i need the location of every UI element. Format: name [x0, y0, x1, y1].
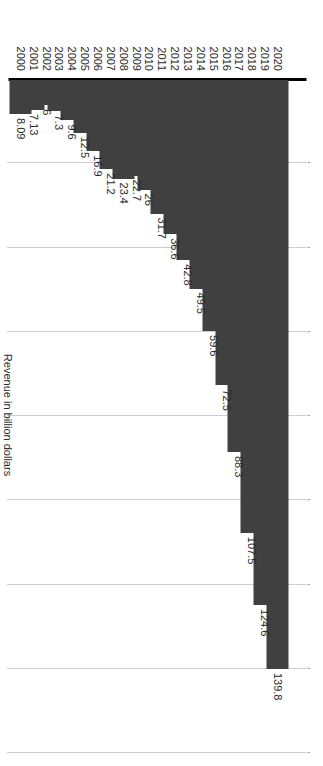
bar-row: 62002: [48, 78, 61, 752]
bar-row: 42.82013: [189, 78, 202, 752]
bar-row: 31.72011: [163, 78, 176, 752]
bar-row: 9.62004: [73, 78, 86, 752]
bar-row: 124.62019: [266, 78, 279, 752]
bar-row: 7.132001: [35, 78, 48, 752]
bar-row: 22.72009: [138, 78, 151, 752]
axis-title: Revenue in billion dollars: [1, 78, 13, 752]
bar-row: 7.32003: [61, 78, 74, 752]
bar-row: 12.52005: [86, 78, 99, 752]
bar-row: 88.32017: [241, 78, 254, 752]
bar-row: 72.52016: [228, 78, 241, 752]
bar-row: 36.62012: [176, 78, 189, 752]
bar-row: 49.52014: [202, 78, 215, 752]
bar-row: 8.092000: [22, 78, 35, 752]
chart-stage: 139.82020124.62019107.5201888.3201772.52…: [0, 0, 323, 766]
bar-row: 139.82020: [279, 78, 292, 752]
chart-canvas: 139.82020124.62019107.5201888.3201772.52…: [0, 0, 323, 766]
bar-row: 59.62015: [215, 78, 228, 752]
gridline: [7, 752, 309, 753]
bar-row: 262010: [151, 78, 164, 752]
category-label: 2000: [9, 47, 31, 71]
plot-area: 139.82020124.62019107.5201888.3201772.52…: [22, 78, 292, 752]
bar-row: 16.92006: [99, 78, 112, 752]
bar-row: 23.42008: [125, 78, 138, 752]
bar-row: 21.22007: [112, 78, 125, 752]
bar-row: 107.52018: [253, 78, 266, 752]
